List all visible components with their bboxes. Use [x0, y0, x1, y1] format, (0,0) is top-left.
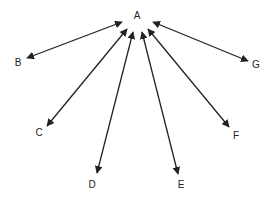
node-label-e: E	[178, 179, 185, 190]
edges-group	[27, 22, 248, 174]
diagram-canvas: A BCDEFG	[0, 0, 274, 201]
node-label-b: B	[15, 57, 22, 68]
double-arrow-a-e	[142, 32, 178, 174]
double-arrow-a-f	[148, 29, 229, 127]
labels-group: A BCDEFG	[15, 10, 260, 190]
node-label-d: D	[88, 179, 95, 190]
node-label-a: A	[134, 10, 141, 21]
double-arrow-a-d	[97, 32, 133, 173]
double-arrow-a-c	[47, 29, 127, 126]
node-label-c: C	[35, 127, 42, 138]
node-label-f: F	[233, 130, 239, 141]
hub-diagram: A BCDEFG	[0, 0, 274, 201]
node-label-g: G	[252, 59, 260, 70]
double-arrow-a-g	[153, 22, 248, 61]
